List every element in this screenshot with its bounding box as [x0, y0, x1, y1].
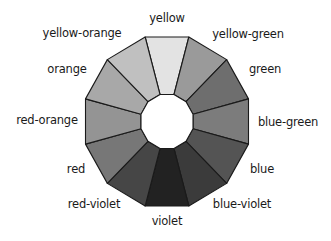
label-yellow-orange: yellow-orange	[43, 28, 122, 40]
center-hole	[141, 95, 193, 149]
label-yellow: yellow	[149, 13, 185, 25]
label-yellow-green: yellow-green	[212, 29, 284, 41]
label-green: green	[249, 64, 281, 76]
label-red-orange: red-orange	[16, 115, 78, 127]
label-violet: violet	[152, 216, 183, 228]
label-red-violet: red-violet	[68, 199, 121, 211]
label-orange: orange	[47, 64, 86, 76]
label-red: red	[67, 164, 85, 176]
label-blue-green: blue-green	[258, 117, 318, 129]
label-blue-violet: blue-violet	[213, 199, 271, 211]
label-blue: blue	[250, 164, 274, 176]
